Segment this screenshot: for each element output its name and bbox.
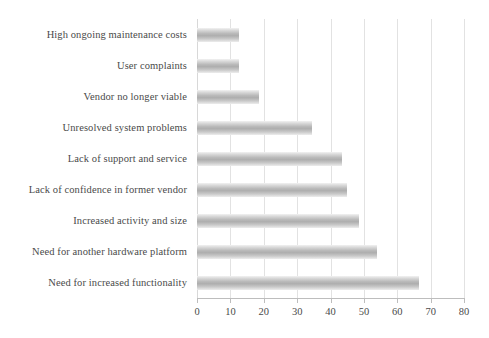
bar-row	[197, 90, 464, 104]
bar-row	[197, 59, 464, 73]
axis-tick-label: 80	[449, 305, 479, 318]
bar-row	[197, 28, 464, 42]
category-label: Unresolved system problems	[0, 122, 187, 134]
axis-tick	[230, 299, 231, 303]
plot-area	[197, 19, 464, 298]
bar	[197, 28, 239, 42]
bar	[197, 152, 342, 166]
bar-row	[197, 152, 464, 166]
axis-tick-label: 0	[182, 305, 212, 318]
category-label: Need for another hardware platform	[0, 246, 187, 258]
axis-tick	[331, 299, 332, 303]
category-axis: High ongoing maintenance costsUser compl…	[0, 19, 193, 298]
category-label: Increased activity and size	[0, 215, 187, 227]
category-label: Lack of support and service	[0, 153, 187, 165]
bar	[197, 183, 347, 197]
axis-tick-label: 20	[249, 305, 279, 318]
bar	[197, 90, 259, 104]
axis-tick	[197, 299, 198, 303]
bar-row	[197, 121, 464, 135]
category-label: Need for increased functionality	[0, 277, 187, 289]
axis-tick-label: 10	[215, 305, 245, 318]
category-label: Lack of confidence in former vendor	[0, 184, 187, 196]
bar	[197, 59, 239, 73]
bar-chart: High ongoing maintenance costsUser compl…	[0, 0, 489, 338]
axis-tick-label: 50	[349, 305, 379, 318]
axis-tick-label: 60	[382, 305, 412, 318]
axis-tick-label: 70	[416, 305, 446, 318]
bar	[197, 214, 359, 228]
axis-tick	[464, 299, 465, 303]
bar	[197, 276, 419, 290]
category-label: High ongoing maintenance costs	[0, 29, 187, 41]
axis-tick	[431, 299, 432, 303]
axis-tick	[397, 299, 398, 303]
axis-tick	[264, 299, 265, 303]
axis-tick-label: 30	[282, 305, 312, 318]
bar-row	[197, 214, 464, 228]
bar	[197, 121, 312, 135]
category-label: Vendor no longer viable	[0, 91, 187, 103]
bar-row	[197, 245, 464, 259]
bar-row	[197, 183, 464, 197]
category-label: User complaints	[0, 60, 187, 72]
bar-row	[197, 276, 464, 290]
axis-tick	[364, 299, 365, 303]
axis-tick-label: 40	[316, 305, 346, 318]
bar	[197, 245, 377, 259]
gridline-80	[464, 19, 465, 298]
axis-tick	[297, 299, 298, 303]
